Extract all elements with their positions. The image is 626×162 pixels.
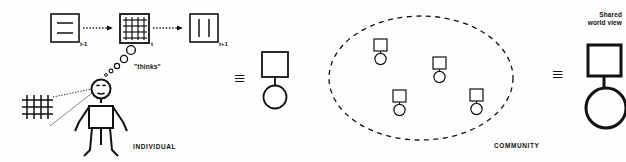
state-box-prev-time-label: t-1 — [80, 41, 87, 47]
observed-world-grid — [22, 95, 53, 119]
state-box-next — [190, 14, 218, 42]
sight-lines — [50, 89, 92, 126]
community-member-3 — [393, 90, 406, 116]
thinks-label: "thinks" — [134, 64, 161, 71]
state-box-prev — [51, 14, 79, 42]
thought-bubbles — [105, 46, 136, 77]
equivalence-symbol-1: ≡ — [234, 68, 245, 88]
shared-world-view-label-line1: Shared — [556, 12, 622, 19]
diagram-vector-layer — [0, 0, 626, 162]
community-boundary — [329, 16, 513, 140]
state-box-now — [120, 14, 149, 43]
shared-world-view-label-line2: world view — [556, 20, 622, 27]
community-member-4 — [470, 89, 483, 115]
state-box-now-time-label: t — [151, 41, 153, 47]
shared-world-view-symbol — [586, 45, 626, 128]
abstract-individual-symbol — [262, 52, 288, 109]
community-member-1 — [374, 39, 387, 65]
state-box-next-time-label: t+1 — [219, 41, 228, 47]
community-member-2 — [433, 57, 446, 83]
individual-section-label: INDIVIDUAL — [133, 144, 176, 151]
diagram-canvas: t-1 t t+1 "thinks" INDIVIDUAL ≡ COMMUNIT… — [0, 0, 626, 162]
equivalence-symbol-2: ≡ — [552, 64, 563, 84]
stick-figure — [75, 80, 127, 157]
community-section-label: COMMUNITY — [494, 143, 539, 150]
